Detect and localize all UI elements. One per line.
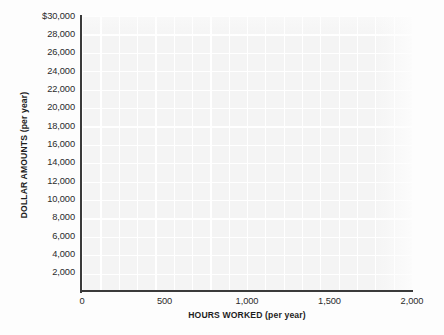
y-tick-label: $30,000 [0, 11, 75, 21]
x-tick-label: 2,000 [401, 296, 424, 306]
y-tick-label: 28,000 [0, 29, 75, 39]
x-axis-title: HOURS WORKED (per year) [82, 310, 412, 320]
y-tick-label: 2,000 [0, 267, 75, 277]
x-tick-label: 1,500 [318, 296, 341, 306]
x-tick-label: 1,000 [236, 296, 259, 306]
x-tick-label: 0 [79, 296, 84, 306]
y-tick-label: 12,000 [0, 176, 75, 186]
x-axis-line [80, 290, 413, 292]
y-axis-title: DOLLAR AMOUNTS (per year) [19, 75, 29, 235]
y-axis-tick-labels: 2,0004,0006,0008,00010,00012,00014,00016… [0, 0, 75, 335]
y-tick-label: 16,000 [0, 139, 75, 149]
y-tick-label: 20,000 [0, 102, 75, 112]
x-tick-label: 500 [157, 296, 172, 306]
y-tick-label: 10,000 [0, 194, 75, 204]
y-tick-label: 6,000 [0, 231, 75, 241]
blank-graph-figure: 2,0004,0006,0008,00010,00012,00014,00016… [0, 0, 444, 335]
y-axis-line [80, 15, 82, 293]
y-tick-label: 24,000 [0, 66, 75, 76]
plot-area[interactable] [82, 16, 412, 292]
y-tick-label: 18,000 [0, 121, 75, 131]
y-tick-label: 22,000 [0, 84, 75, 94]
y-tick-label: 4,000 [0, 249, 75, 259]
y-tick-label: 26,000 [0, 47, 75, 57]
y-tick-label: 14,000 [0, 157, 75, 167]
y-tick-label: 8,000 [0, 212, 75, 222]
